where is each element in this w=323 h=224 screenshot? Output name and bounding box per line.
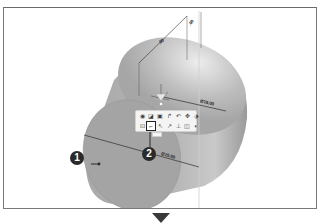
view-orient-icon[interactable]: ◉ xyxy=(138,112,146,120)
normal-to-icon[interactable]: ⬗ xyxy=(192,112,200,120)
hide-show-icon[interactable]: ◫ xyxy=(183,122,191,130)
rotate-icon[interactable]: ↱ xyxy=(165,112,173,120)
undo-icon[interactable]: ↶ xyxy=(174,112,182,120)
context-toolbar-row-1: ◉ ◪ ▣ ↱ ↶ ✥ ⬗ xyxy=(138,112,200,121)
cad-viewport-frame: Ø15.00 Ø15.00 .00 .00 ◉ ◪ ▣ ↱ ↶ ✥ ⬗ ⊡ ⌐ … xyxy=(3,7,317,209)
edit-feature-icon[interactable]: ◪ xyxy=(147,112,155,120)
pointer-icon[interactable]: ↖ xyxy=(156,122,164,130)
context-toolbar: ◉ ◪ ▣ ↱ ↶ ✥ ⬗ ⊡ ⌐ ↖ ↗ ⊥ ◫ ◐ xyxy=(135,110,197,132)
callout-1-badge: 1 xyxy=(70,151,84,165)
callout-2-badge: 2 xyxy=(142,147,156,161)
smart-dimension-icon[interactable]: ↗ xyxy=(165,122,173,130)
graphics-area[interactable]: Ø15.00 Ø15.00 .00 .00 ◉ ◪ ▣ ↱ ↶ ✥ ⬗ ⊡ ⌐ … xyxy=(4,8,316,208)
appearance-icon[interactable]: ✥ xyxy=(183,112,191,120)
perpendicular-icon[interactable]: ⊥ xyxy=(174,122,182,130)
down-arrow-icon xyxy=(152,213,170,223)
toolbar-tooltip xyxy=(152,132,162,137)
select-other-icon[interactable]: ⊡ xyxy=(138,122,146,130)
sketch-icon[interactable]: ▣ xyxy=(156,112,164,120)
sketch-line-icon[interactable]: ⌐ xyxy=(147,122,155,130)
zoom-selection-icon[interactable]: ◐ xyxy=(192,122,200,130)
context-toolbar-row-2: ⊡ ⌐ ↖ ↗ ⊥ ◫ ◐ xyxy=(138,122,200,131)
